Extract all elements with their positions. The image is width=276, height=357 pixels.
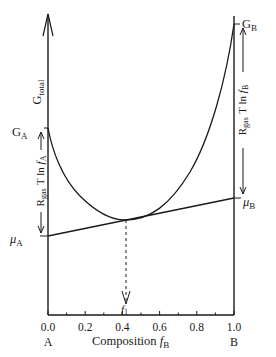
- tick-0-8: 0.8: [190, 321, 205, 333]
- muB-label: μB: [242, 195, 255, 211]
- tick-1-0: 1.0: [227, 321, 242, 333]
- end-label-A: A: [44, 335, 53, 349]
- tick-0-4: 0.4: [115, 321, 130, 333]
- free-energy-diagram: 0.0 0.2 0.4 0.6 0.8 1.0 A B Composition …: [0, 0, 276, 357]
- gtotal-curve: [48, 24, 234, 220]
- f1-label: f1: [121, 303, 128, 317]
- x-axis-title: Composition fB: [92, 334, 169, 350]
- muA-label: μA: [9, 232, 23, 248]
- rgas-A-label: Rgas T ln fA: [34, 155, 48, 206]
- tick-0-6: 0.6: [152, 321, 167, 333]
- end-label-B: B: [230, 335, 238, 349]
- tangent-line: [48, 198, 234, 236]
- y-axis-title: Gtotal: [30, 79, 46, 105]
- rgas-B-label: Rgas T ln fB: [236, 85, 250, 135]
- x-tick-labels: 0.0 0.2 0.4 0.6 0.8 1.0: [41, 321, 242, 333]
- GA-label: GA: [12, 125, 28, 141]
- tick-0: 0.0: [41, 321, 56, 333]
- tick-0-2: 0.2: [78, 321, 93, 333]
